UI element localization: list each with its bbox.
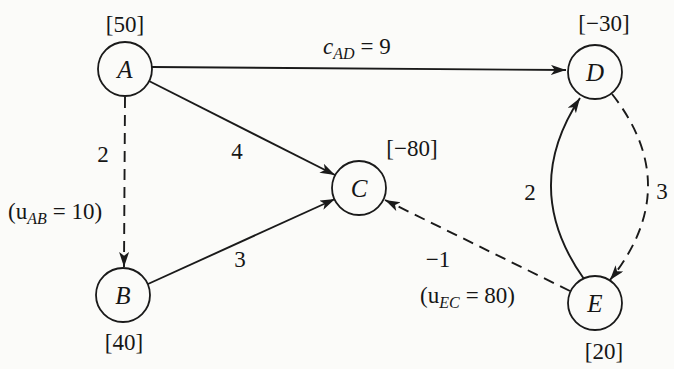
edge-ec-capacity-sub: EC [438,294,460,311]
node-b-label: B [115,282,130,309]
node-a-supply: [50] [106,12,144,37]
edge-a-to-b [124,97,125,267]
node-e: E [568,276,622,330]
edge-ad-cost-eq: = 9 [361,34,391,59]
edge-ab-capacity-open: (u [8,199,28,224]
edge-d-to-e [610,94,648,280]
network-flow-diagram: A B C D E [50] [−30] [−80] [40] [20] cAD… [0,0,674,369]
edge-ad-cost-sub: AD [332,45,355,62]
edge-ab-capacity-eq: = 10) [53,199,102,224]
edge-ab-capacity-label: (uAB= 10) [8,199,102,227]
edge-ec-capacity-eq: = 80) [466,283,515,308]
node-d-label: D [585,59,604,86]
node-b: B [96,268,150,322]
edge-ed-cost-label: 2 [524,180,536,205]
edge-a-to-d [152,67,566,70]
edge-bc-cost-label: 3 [234,247,246,272]
node-a: A [98,42,152,96]
node-e-label: E [586,290,602,317]
node-d: D [568,45,622,99]
edge-ab-cost-label: 2 [97,142,109,167]
edge-e-to-c [385,200,570,291]
edge-de-cost-label: 3 [656,179,668,204]
edge-ac-cost-label: 4 [231,139,243,164]
node-c: C [332,161,386,215]
edge-ec-capacity-open: (u [420,283,440,308]
node-e-supply: [20] [585,339,623,364]
node-c-label: C [351,175,368,202]
node-b-supply: [40] [105,330,143,355]
node-a-label: A [115,56,133,83]
node-d-supply: [−30] [578,11,629,36]
edge-ec-cost-label: −1 [426,247,450,272]
diagram-canvas: A B C D E [50] [−30] [−80] [40] [20] cAD… [0,0,674,369]
node-c-supply: [−80] [386,136,437,161]
edge-e-to-d [551,98,584,279]
edge-ec-capacity-label: (uEC= 80) [420,283,515,311]
edge-ad-cost-var: c [323,34,333,59]
edge-ad-cost-label: cAD= 9 [323,34,391,62]
edge-ab-capacity-sub: AB [26,210,47,227]
